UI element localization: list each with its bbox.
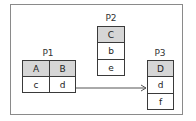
reference-arrow: [0, 0, 196, 121]
